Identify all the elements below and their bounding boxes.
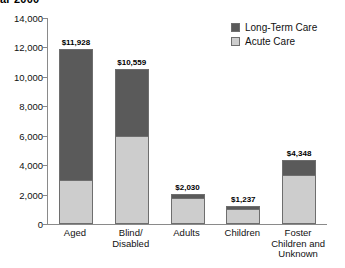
y-axis-tick-label: 10,000 [14,71,43,82]
bar-segment-acute-care[interactable] [282,175,316,224]
y-axis-tick [43,224,48,225]
legend-item[interactable]: Acute Care [231,36,317,47]
y-axis-tick-label: 12,000 [14,42,43,53]
legend-label: Acute Care [245,36,295,47]
y-axis-tick-label: 6,000 [19,130,43,141]
bar-group[interactable]: $2,030 [171,194,205,224]
bar-value-label: $2,030 [175,183,199,192]
bar-segment-acute-care[interactable] [226,209,260,224]
y-axis-labels: 14,00012,00010,0008,0006,0004,0002,0000 [0,18,43,225]
bar-segment-long-term-care[interactable] [115,69,149,136]
bar-segment-long-term-care[interactable] [59,49,93,180]
x-axis-category-line: Aged [47,228,103,239]
y-axis-tick-label: 8,000 [19,101,43,112]
bar-value-label: $1,237 [231,195,255,204]
bar-group[interactable]: $1,237 [226,206,260,224]
x-axis-category-label: Children [214,228,270,239]
x-axis-category-label: FosterChildren andUnknown [270,228,326,260]
x-axis-line [47,224,327,225]
chart-legend: Long-Term CareAcute Care [231,22,317,50]
y-axis-tick-label: 14,000 [14,13,43,24]
y-axis-tick-label: 4,000 [19,160,43,171]
legend-item[interactable]: Long-Term Care [231,22,317,33]
chart-container: ar 2000 14,00012,00010,0008,0006,0004,00… [0,0,345,268]
legend-swatch-icon [231,37,240,46]
y-axis-tick-label: 2,000 [19,189,43,200]
bar-value-label: $11,928 [62,38,90,47]
x-axis-category-label: Adults [159,228,215,239]
x-axis-category-label: Blind/Disabled [103,228,159,249]
bar-segment-acute-care[interactable] [59,180,93,224]
bar-value-label: $4,348 [287,149,311,158]
legend-label: Long-Term Care [245,22,317,33]
x-axis-category-line: Disabled [103,239,159,250]
bar-value-label: $10,559 [117,58,146,67]
chart-title: ar 2000 [0,0,39,5]
bar-group[interactable]: $4,348 [282,160,316,224]
x-axis-category-line: Blind/ [103,228,159,239]
x-axis-category-line: Foster [270,228,326,239]
x-axis-category-label: Aged [47,228,103,239]
legend-swatch-icon [231,23,240,32]
x-axis-category-line: Children [214,228,270,239]
x-axis-category-line: Unknown [270,249,326,260]
bar-segment-acute-care[interactable] [115,136,149,224]
bar-segment-acute-care[interactable] [171,198,205,224]
bar-group[interactable]: $11,928 [59,49,93,225]
bar-segment-long-term-care[interactable] [282,160,316,175]
x-axis-category-line: Adults [159,228,215,239]
bar-group[interactable]: $10,559 [115,69,149,224]
